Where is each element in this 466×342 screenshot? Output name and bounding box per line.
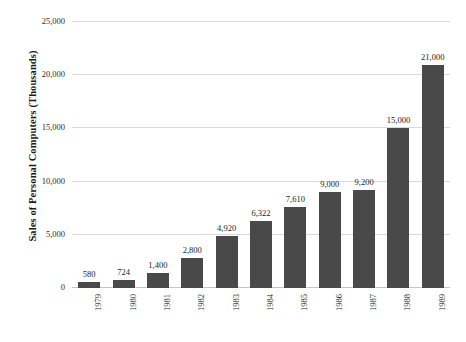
bar[interactable] [216, 236, 238, 288]
bar-value-label: 4,920 [217, 223, 236, 233]
bar[interactable] [387, 128, 409, 288]
bar-value-label: 15,000 [387, 115, 410, 125]
bar[interactable] [422, 65, 444, 288]
x-axis-tick-label: 1987 [368, 294, 378, 311]
bar-group: 1,4001981 [141, 22, 175, 288]
y-axis-tick-label: 10,000 [42, 176, 65, 186]
x-axis-tick-label: 1986 [334, 294, 344, 311]
bar-group: 7241980 [106, 22, 140, 288]
x-axis-tick-label: 1980 [128, 294, 138, 311]
x-axis-tick-label: 1984 [265, 294, 275, 311]
bar[interactable] [319, 192, 341, 288]
bar-group: 7,6101985 [278, 22, 312, 288]
bar-value-label: 1,400 [148, 260, 167, 270]
bar-group: 9,2001987 [347, 22, 381, 288]
bar-value-label: 724 [117, 267, 130, 277]
y-axis-title: Sales of Personal Computers (Thousands) [24, 2, 42, 290]
bar-value-label: 21,000 [421, 52, 444, 62]
x-axis-tick-label: 1982 [196, 294, 206, 311]
y-axis-tick-label: 5,000 [46, 229, 65, 239]
bar-chart: Sales of Personal Computers (Thousands) … [0, 0, 466, 342]
bar-value-label: 6,322 [251, 208, 270, 218]
bar-value-label: 9,200 [355, 177, 374, 187]
bar-group: 6,3221984 [244, 22, 278, 288]
bar-value-label: 2,800 [183, 245, 202, 255]
bar-value-label: 7,610 [286, 194, 305, 204]
x-axis-tick-label: 1988 [402, 294, 412, 311]
bar-series: 580197972419801,40019812,80019824,920198… [72, 22, 450, 288]
y-axis-tick-label: 25,000 [42, 16, 65, 26]
bar-group: 15,0001988 [381, 22, 415, 288]
x-axis-tick-label: 1981 [162, 294, 172, 311]
bar[interactable] [250, 221, 272, 288]
y-axis-tick-label: 15,000 [42, 122, 65, 132]
plot-area: 05,00010,00015,00020,00025,000 580197972… [72, 22, 450, 288]
bar[interactable] [113, 280, 135, 288]
bar[interactable] [181, 258, 203, 288]
bar-group: 9,0001986 [313, 22, 347, 288]
bar-group: 21,0001989 [416, 22, 450, 288]
bar-value-label: 9,000 [320, 179, 339, 189]
bar[interactable] [147, 273, 169, 288]
bar-group: 5801979 [72, 22, 106, 288]
bar-value-label: 580 [83, 269, 96, 279]
x-axis-tick-label: 1985 [299, 294, 309, 311]
x-axis-tick-label: 1989 [437, 294, 447, 311]
bar-group: 2,8001982 [175, 22, 209, 288]
bar[interactable] [78, 282, 100, 288]
bar[interactable] [353, 190, 375, 288]
x-axis-tick-label: 1979 [93, 294, 103, 311]
x-axis-tick-label: 1983 [231, 294, 241, 311]
bar[interactable] [284, 207, 306, 288]
bar-group: 4,9201983 [209, 22, 243, 288]
y-axis-tick-label: 20,000 [42, 69, 65, 79]
y-axis-tick-label: 0 [61, 282, 65, 292]
